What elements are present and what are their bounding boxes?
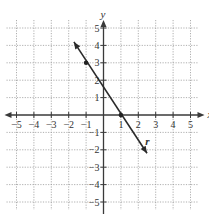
y-tick-label: −4: [89, 179, 100, 190]
line-label-r: r: [145, 135, 150, 147]
y-tick-label: −5: [89, 197, 100, 208]
marked-point: [84, 61, 89, 66]
y-tick-label: 5: [95, 23, 100, 34]
x-tick-label: −3: [46, 119, 57, 130]
coordinate-plane: xy −5−4−3−2−11234554321−1−2−3−4−5 r: [0, 0, 209, 214]
x-tick-label: 5: [188, 119, 193, 130]
y-tick-label: 4: [95, 40, 100, 51]
line-arrow-start-icon: [74, 42, 80, 49]
x-tick-label: 4: [171, 119, 176, 130]
x-tick-label: −4: [29, 119, 40, 130]
y-axis-label: y: [100, 8, 106, 20]
axes: xy: [5, 8, 210, 214]
y-tick-label: 1: [95, 92, 100, 103]
x-tick-label: −2: [63, 119, 74, 130]
x-tick-label: 1: [118, 119, 123, 130]
y-tick-label: 3: [95, 57, 100, 68]
y-tick-label: −3: [89, 162, 100, 173]
y-tick-label: −1: [89, 127, 100, 138]
x-axis-arrow-right-icon: [198, 112, 205, 118]
x-axis-label: x: [207, 108, 210, 120]
x-tick-label: 3: [153, 119, 158, 130]
y-tick-label: −2: [89, 144, 100, 155]
marked-point: [119, 113, 124, 118]
y-axis-arrow-up-icon: [101, 20, 107, 27]
x-axis-arrow-left-icon: [5, 112, 12, 118]
x-tick-label: −5: [11, 119, 22, 130]
x-tick-label: 2: [136, 119, 141, 130]
